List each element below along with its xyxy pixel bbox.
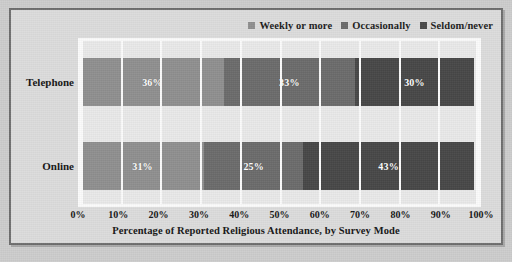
legend-label: Weekly or more: [259, 20, 332, 31]
x-axis-tick-label: 40%: [229, 209, 249, 220]
x-axis-tick-label: 90%: [431, 209, 451, 220]
bar-segment[interactable]: 33%: [224, 58, 355, 106]
x-axis-tick-label: 80%: [390, 209, 410, 220]
bar-segment[interactable]: 31%: [81, 142, 204, 190]
x-axis-tick-label: 70%: [350, 209, 370, 220]
x-axis-tick-label: 30%: [189, 209, 209, 220]
legend-swatch-icon: [341, 22, 348, 29]
legend-label: Seldom/never: [431, 20, 493, 31]
bar-value-label: 33%: [279, 77, 300, 88]
bar-segment[interactable]: 36%: [81, 58, 224, 106]
legend-swatch-icon: [420, 22, 427, 29]
chart-legend: Weekly or moreOccasionallySeldom/never: [248, 18, 493, 32]
chart-frame: Weekly or moreOccasionallySeldom/never T…: [9, 8, 503, 245]
bar-value-label: 43%: [378, 161, 399, 172]
category-label: Telephone: [26, 76, 74, 88]
legend-item[interactable]: Seldom/never: [420, 20, 493, 31]
bar-value-label: 36%: [142, 77, 163, 88]
bar-value-label: 25%: [243, 161, 264, 172]
x-axis-tick-label: 100%: [469, 209, 494, 220]
figure-root: Weekly or moreOccasionallySeldom/never T…: [0, 0, 512, 262]
x-axis-tick-label: 60%: [310, 209, 330, 220]
x-axis-tick-label: 20%: [149, 209, 169, 220]
bar-segment[interactable]: 30%: [355, 58, 474, 106]
x-axis-tick-labels: 0%10%20%30%40%50%60%70%80%90%100%: [78, 209, 481, 225]
x-axis-tick-label: 10%: [108, 209, 128, 220]
x-axis-title: Percentage of Reported Religious Attenda…: [11, 225, 501, 236]
plot-wrapper: Telephone36%33%30%Online31%25%43%: [78, 38, 481, 207]
legend-label: Occasionally: [352, 20, 410, 31]
bar-value-label: 31%: [132, 161, 153, 172]
bar-segment[interactable]: 25%: [204, 142, 303, 190]
legend-item[interactable]: Occasionally: [341, 20, 410, 31]
plot-area: Telephone36%33%30%Online31%25%43%: [78, 38, 481, 207]
category-label: Online: [42, 160, 74, 172]
x-axis-tick-label: 0%: [71, 209, 86, 220]
legend-swatch-icon: [248, 22, 255, 29]
bar-row: Telephone36%33%30%: [81, 58, 478, 106]
bar-segment[interactable]: 43%: [303, 142, 474, 190]
bar-row: Online31%25%43%: [81, 142, 478, 190]
x-axis-tick-label: 50%: [270, 209, 290, 220]
legend-item[interactable]: Weekly or more: [248, 20, 332, 31]
bar-value-label: 30%: [404, 77, 425, 88]
